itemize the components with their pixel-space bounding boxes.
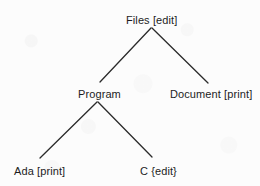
edge-program-to-c bbox=[98, 102, 152, 157]
edge-program-to-ada bbox=[40, 102, 97, 158]
tree-node-document: Document [print] bbox=[170, 88, 252, 101]
tree-node-program: Program bbox=[78, 88, 121, 101]
tree-diagram: Files [edit] Program Document [print] Ad… bbox=[0, 0, 260, 186]
edge-files-to-program bbox=[100, 28, 151, 82]
edge-files-to-document bbox=[152, 28, 208, 83]
tree-node-ada: Ada [print] bbox=[14, 165, 65, 178]
tree-node-files: Files [edit] bbox=[126, 14, 177, 27]
tree-node-c: C {edit} bbox=[140, 165, 177, 178]
